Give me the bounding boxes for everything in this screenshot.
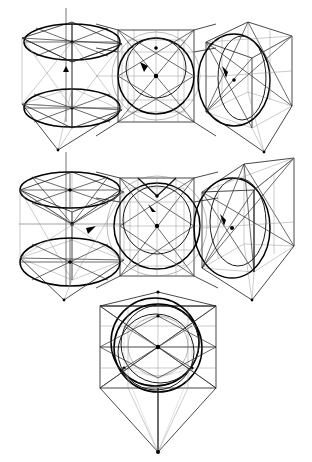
center-dot [232,78,236,82]
convergence-point [263,151,266,154]
center-dot [156,345,160,349]
convergence-point [63,299,66,302]
drawing-plate: Perspective geometry study plate Hand-dr… [0,0,312,462]
upper-node-dot [155,194,159,198]
upper-node-dot [154,46,158,50]
perspective-study-svg: Perspective geometry study plate Hand-dr… [0,0,312,462]
vanishing-point [156,450,160,454]
node-top [156,314,159,317]
convergence-point [57,149,60,152]
node-apex [156,290,159,293]
lower-center-dot [68,260,72,264]
upper-center-dot [68,188,72,192]
center-dot [154,74,158,78]
center-dot [155,224,159,228]
center-dot [230,226,234,230]
convergence-point [251,299,254,302]
